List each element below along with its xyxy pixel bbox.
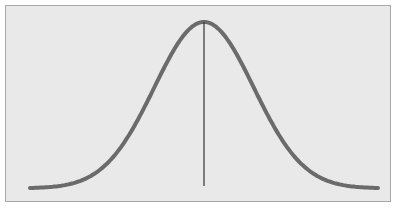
bell-curve-chart: [0, 0, 395, 212]
